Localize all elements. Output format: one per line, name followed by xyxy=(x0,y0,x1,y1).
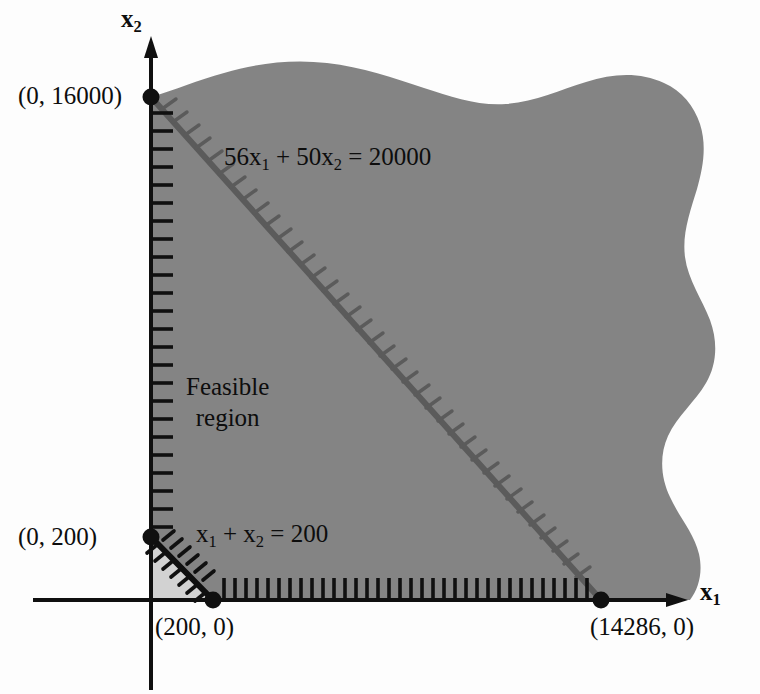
feasible-region-figure: x2 x1 (0, 16000) (0, 200) (200, 0) (1428… xyxy=(0,0,760,694)
constraint-minimum-sub2: 2 xyxy=(256,532,264,551)
vertex-dot-0-16000 xyxy=(143,89,160,106)
y-axis-label: x2 xyxy=(121,5,142,36)
y-axis-label-base: x xyxy=(121,5,134,32)
constraint-minimum-sub1: 1 xyxy=(209,532,217,551)
constraint-resource-suffix: = 20000 xyxy=(342,143,431,170)
vertex-dot-200-0 xyxy=(205,592,222,609)
vertex-label-200-0: (200, 0) xyxy=(155,613,234,641)
x-axis-label: x1 xyxy=(700,578,721,609)
constraint-resource-sub1: 1 xyxy=(262,155,270,174)
vertex-label-0-200: (0, 200) xyxy=(18,523,97,551)
constraint-resource-sub2: 2 xyxy=(334,155,342,174)
constraint-label-resource: 56x1 + 50x2 = 20000 xyxy=(224,143,431,174)
constraint-label-minimum: x1 + x2 = 200 xyxy=(196,520,328,551)
constraint-resource-prefix: 56x xyxy=(224,143,262,170)
feasible-region-line-1: Feasible xyxy=(186,372,269,403)
vertex-label-0-16000: (0, 16000) xyxy=(18,82,122,110)
constraint-resource-mid: + 50x xyxy=(270,143,334,170)
vertex-label-14286-0: (14286, 0) xyxy=(590,613,694,641)
constraint-minimum-prefix: x xyxy=(196,520,209,547)
feasible-region-line-2: region xyxy=(186,403,269,434)
vertex-dot-14286-0 xyxy=(593,592,610,609)
x-axis-label-subscript: 1 xyxy=(713,590,721,609)
x-axis-label-base: x xyxy=(700,578,713,605)
constraint-minimum-suffix: = 200 xyxy=(264,520,328,547)
constraint-minimum-mid: + x xyxy=(217,520,256,547)
feasible-region-annotation: Feasible region xyxy=(186,372,269,433)
y-axis-label-subscript: 2 xyxy=(134,17,142,36)
vertex-dot-0-200 xyxy=(143,529,160,546)
